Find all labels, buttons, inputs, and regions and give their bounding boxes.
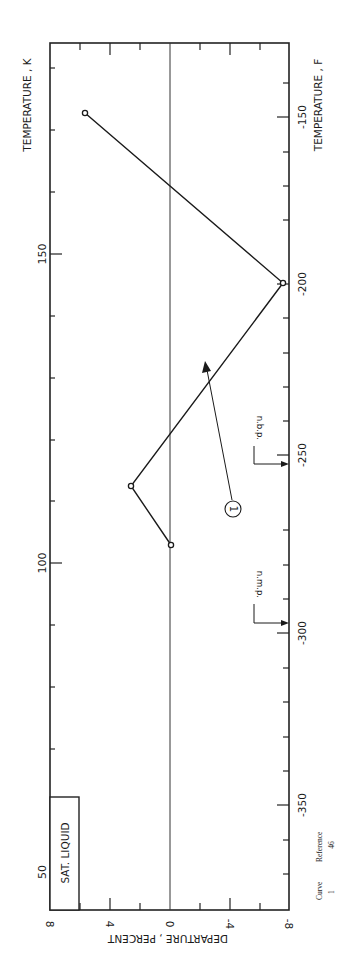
arrowhead-icon — [281, 461, 289, 467]
percent-axis-title: DEPARTURE , PERCENT — [107, 933, 228, 945]
curve-label-text: 1 — [228, 506, 239, 512]
arrowhead-icon — [281, 620, 289, 626]
legend-cell-reference: 46 — [327, 841, 336, 849]
kelvin-tick-label: 150 — [36, 244, 49, 265]
fahrenheit-tick-label: -350 — [296, 793, 308, 817]
percent-tick-label: -8 — [283, 919, 295, 929]
departure-chart: 1 n.b.p. n.m.p. SAT. LIQUID 150 100 50 T… — [0, 0, 350, 972]
fahrenheit-ticks — [277, 83, 289, 874]
nmp-label: n.m.p. — [255, 571, 265, 598]
curve-1-line — [85, 113, 283, 545]
curve-label-arrow — [207, 370, 232, 500]
data-point — [168, 542, 173, 547]
data-point — [280, 280, 285, 285]
percent-tick-label: 8 — [44, 921, 56, 928]
data-point — [128, 483, 133, 488]
legend-cell-curve: 1 — [327, 890, 336, 894]
data-point — [82, 110, 87, 115]
fahrenheit-tick-label: -200 — [296, 272, 308, 296]
percent-tick-label: 4 — [104, 921, 116, 928]
percent-tick-label: 0 — [164, 921, 176, 928]
fahrenheit-tick-label: -150 — [296, 105, 308, 129]
kelvin-ticks — [50, 68, 62, 811]
legend-header-curve: Curve — [315, 881, 324, 900]
fahrenheit-tick-label: -250 — [296, 443, 308, 467]
fahrenheit-tick-label: -300 — [296, 621, 308, 645]
nmp-arrow — [254, 604, 285, 623]
kelvin-tick-label: 50 — [36, 865, 49, 879]
arrowhead-icon — [202, 361, 211, 373]
state-label: SAT. LIQUID — [59, 822, 71, 883]
percent-tick-label: -4 — [224, 919, 236, 930]
kelvin-tick-label: 100 — [36, 553, 49, 574]
fahrenheit-axis-title: TEMPERATURE , F — [312, 59, 324, 152]
legend-header-reference: Reference — [315, 831, 324, 862]
nbp-label: n.b.p. — [255, 416, 265, 440]
kelvin-axis-title: TEMPERATURE , K — [21, 57, 33, 152]
curve-1-markers — [82, 110, 285, 547]
